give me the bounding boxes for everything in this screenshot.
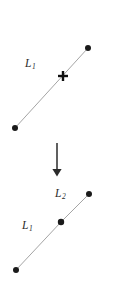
bottom-lower-left-endpoint-dot [13, 267, 19, 273]
label-top-l1-subscript: 1 [32, 62, 36, 71]
label-top-l1-base: L [25, 57, 32, 69]
top-panel-group [12, 45, 91, 131]
diagram-canvas [0, 0, 114, 288]
top-upper-right-endpoint-dot [85, 45, 91, 51]
label-bottom-l2-subscript: 2 [62, 192, 66, 201]
downward-arrow-icon [52, 143, 61, 177]
bottom-upper-right-endpoint-dot [86, 191, 92, 197]
label-bottom-l1-subscript: 1 [29, 224, 33, 233]
label-bottom-l1-base: L [22, 219, 29, 231]
bottom-split-vertex-dot [58, 219, 64, 225]
label-bottom-l2: L2 [55, 188, 66, 200]
bottom-panel-group [13, 191, 92, 273]
top-lower-left-endpoint-dot [12, 125, 18, 131]
label-bottom-l1: L1 [22, 220, 33, 232]
label-top-l1: L1 [25, 58, 36, 70]
line-split-figure: L1 L2 L1 [0, 0, 114, 288]
label-bottom-l2-base: L [55, 187, 62, 199]
